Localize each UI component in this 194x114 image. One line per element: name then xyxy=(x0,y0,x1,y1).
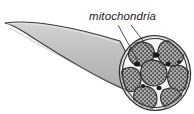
mito-spot-outer xyxy=(141,84,145,88)
mito-spot-left xyxy=(134,62,140,67)
fiber-center xyxy=(141,60,167,86)
muscle-fiber-diagram: mitochondria xyxy=(0,0,194,114)
fiber-lower-left xyxy=(134,86,157,110)
mitochondria-label: mitochondria xyxy=(89,10,156,22)
cross-section-disc xyxy=(112,29,194,114)
mito-spot-edge xyxy=(177,60,181,64)
fiber-right xyxy=(168,65,190,91)
mito-spot-mid xyxy=(166,62,171,66)
figure-container: mitochondria xyxy=(0,0,194,114)
mito-spot-lower xyxy=(156,86,161,90)
